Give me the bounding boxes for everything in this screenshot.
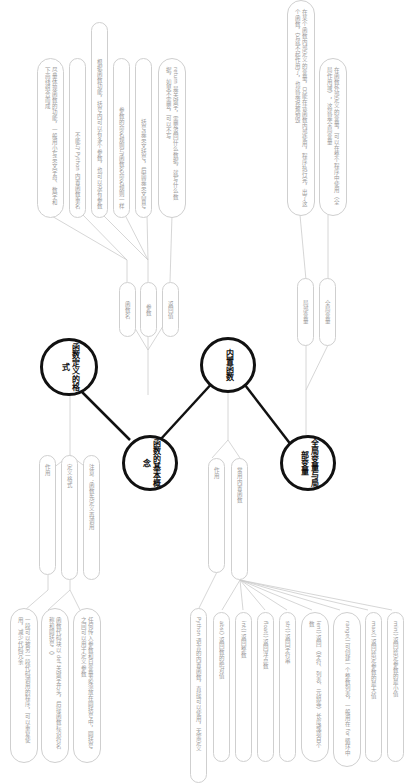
hub-function-definition-format[interactable]: 函数定义的格式 xyxy=(40,338,98,396)
note-builtin-role: Python 语言的内置函数，直接可以使用，无需定义 xyxy=(190,608,207,783)
builtin-range: range() 可创建一个整数列表，一般用在 for 循环中 xyxy=(333,612,361,767)
builtin-max: max() 返回给定参数的最大值 xyxy=(365,612,382,762)
note-param-naming: 参数的命名规则与函数名命名规则一样 xyxy=(113,58,130,218)
node-function-name[interactable]: 函数名 xyxy=(119,282,136,337)
note-no-builtin-name: 不能与 Python 内置函数重名 xyxy=(69,58,86,218)
note-english-brackets: 括号是英文括号，后面是英文冒号 xyxy=(135,58,152,218)
node-common-builtins[interactable]: 常用内置函数 xyxy=(231,458,248,580)
builtin-int: int() 返回整数 xyxy=(235,612,252,762)
hub-function-basics[interactable]: 函数的基本概念 xyxy=(122,435,178,491)
node-basics-note[interactable]: 注意：函数先定义再调用 xyxy=(83,455,100,580)
note-global-variable: 在函数外部定义的变量，可以在整个程序中使用（全局作用域），这就是全局变量 xyxy=(319,58,347,216)
note-function-name-rule: 尽量体现函数的功能，一般用小写英文字母、数字和下画线组合而成 xyxy=(37,58,64,218)
hub-global-local-variables[interactable]: 全局变量与局部变量 xyxy=(280,435,336,491)
builtin-len: len() 返回（字符、列表、元组等）长度或项目个数 xyxy=(301,612,329,762)
node-basics-format[interactable]: 定义格式 xyxy=(61,455,78,580)
builtin-abs: abs() 返回数的绝对值 xyxy=(213,612,230,762)
note-return-keyword: return 是关键字，需要返回什么数据，就写什么数据，如果不需要，可以不写 xyxy=(158,58,186,218)
hub-builtin-functions[interactable]: 内置函数 xyxy=(200,337,256,393)
node-builtin-role[interactable]: 作用 xyxy=(208,458,225,573)
note-local-variable: 在某个函数内部定义的变量，只能在该函数内部使用，程序执行完，出了这个函数，它就不… xyxy=(287,0,315,216)
node-return-value[interactable]: 返回值 xyxy=(162,282,179,337)
builtin-float: float() 返回浮点数 xyxy=(257,612,274,762)
node-parameters[interactable]: 参数 xyxy=(140,282,157,337)
builtin-str: str() 返回字符串 xyxy=(279,612,296,762)
note-param-count: 根据函数功能，括号内可以有多个参数，也可以没有参数 xyxy=(91,22,108,218)
note-parameters-in-parentheses: 任何传入参数和自变量必须放在圆括号中，圆括号之间可以用于定义参数 xyxy=(73,608,101,763)
note-def-keyword: 函数代码块以 def 关键字开头，后接函数标识符名称和圆括号（） xyxy=(41,608,69,763)
node-global-variable[interactable]: 全局变量 xyxy=(319,278,336,346)
node-basics-role[interactable]: 作用 xyxy=(39,455,56,575)
note-basics-role: 一段可以被另一段代码调用的程序，可以重复使用，减少代码冗余 xyxy=(10,608,38,763)
node-local-variable[interactable]: 局部变量 xyxy=(297,278,314,346)
builtin-min: min() 返回给定参数的最小值 xyxy=(387,612,404,762)
